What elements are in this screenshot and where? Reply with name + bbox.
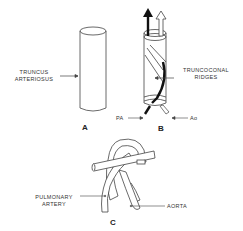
pa-pointer <box>128 117 143 120</box>
great-arteries <box>92 139 155 212</box>
ao-pointer <box>172 117 188 120</box>
panel-c-letter: C <box>110 218 116 227</box>
truncus-arteriosus-label: TRUNCUS ARTERIOSUS <box>14 69 54 82</box>
truncus-pointer <box>60 75 78 78</box>
label-line: TRUNCOCONAL <box>175 67 237 74</box>
label-line: ARTERY <box>28 201 80 208</box>
label-line: TRUNCUS <box>14 69 54 76</box>
label-line: ARTERIOSUS <box>14 76 54 83</box>
label-line: PULMONARY <box>28 194 80 201</box>
pa-outlet <box>145 106 150 114</box>
ao-outlet <box>160 105 169 114</box>
truncoconal-ridges-label: TRUNCOCONAL RIDGES <box>175 67 237 80</box>
pulmonary-artery-label: PULMONARY ARTERY <box>28 194 80 207</box>
flow-arrow-light-icon <box>156 11 166 36</box>
panel-b-letter: B <box>158 124 164 133</box>
pa-label: PA <box>116 115 124 122</box>
label-line: RIDGES <box>175 74 237 81</box>
truncus-cylinder <box>80 27 106 111</box>
panel-a-letter: A <box>82 123 88 132</box>
aorta-label: AORTA <box>167 203 187 210</box>
truncoconal-cylinder <box>144 30 166 106</box>
ao-label: Ao <box>190 115 197 122</box>
